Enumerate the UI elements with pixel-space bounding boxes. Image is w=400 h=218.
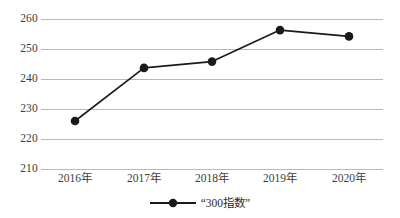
x-tick-label: 2020年 (332, 172, 366, 185)
data-point (71, 117, 80, 126)
y-axis: 260 250 240 230 220 210 (0, 0, 38, 218)
series-markers (71, 26, 354, 126)
x-tick-label: 2019年 (263, 172, 297, 185)
data-point (208, 57, 217, 66)
data-point (345, 32, 354, 41)
plot-area (41, 19, 383, 169)
legend-label: “300指数” (201, 197, 250, 210)
y-tick-label: 230 (2, 103, 38, 115)
chart-legend: “300指数” (0, 192, 400, 214)
data-point (276, 26, 285, 35)
x-tick-label: 2018年 (195, 172, 229, 185)
x-tick-label: 2016年 (58, 172, 92, 185)
series-line (75, 30, 349, 121)
y-tick-label: 220 (2, 133, 38, 145)
y-tick-label: 210 (2, 163, 38, 175)
x-axis: 2016年 2017年 2018年 2019年 2020年 (41, 172, 383, 188)
y-tick-label: 240 (2, 73, 38, 85)
legend-entry-300-index: “300指数” (150, 197, 250, 210)
x-tick-label: 2017年 (127, 172, 161, 185)
series-300-index (41, 19, 383, 169)
line-chart: 260 250 240 230 220 210 2016年 2017年 2018… (0, 0, 400, 218)
y-tick-label: 250 (2, 43, 38, 55)
legend-line-marker-icon (150, 197, 196, 209)
data-point (140, 64, 149, 73)
y-tick-label: 260 (2, 13, 38, 25)
gridline (41, 169, 383, 170)
